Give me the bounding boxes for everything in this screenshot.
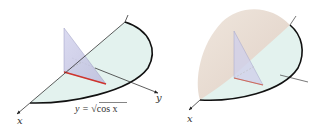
x-axis-upper xyxy=(125,15,128,22)
equation-radicand: cos x xyxy=(97,103,118,114)
solid-x-axis xyxy=(189,100,200,110)
base-region xyxy=(30,22,152,103)
right-figure: x xyxy=(187,9,308,124)
x-axis-label: x xyxy=(17,115,23,126)
diagram-svg: x y y = √cos x x xyxy=(0,0,309,134)
svg-text:y = √cos x: y = √cos x xyxy=(74,103,118,114)
figure-canvas: x y y = √cos x x xyxy=(0,0,309,134)
curve-equation: y = √cos x xyxy=(74,103,127,115)
solid-x-axis-label: x xyxy=(187,113,193,124)
y-axis-label: y xyxy=(155,92,162,103)
equation-prefix: y = xyxy=(74,103,91,114)
solid-x-axis-upper xyxy=(290,16,296,25)
left-figure: x y y = √cos x xyxy=(17,15,162,126)
